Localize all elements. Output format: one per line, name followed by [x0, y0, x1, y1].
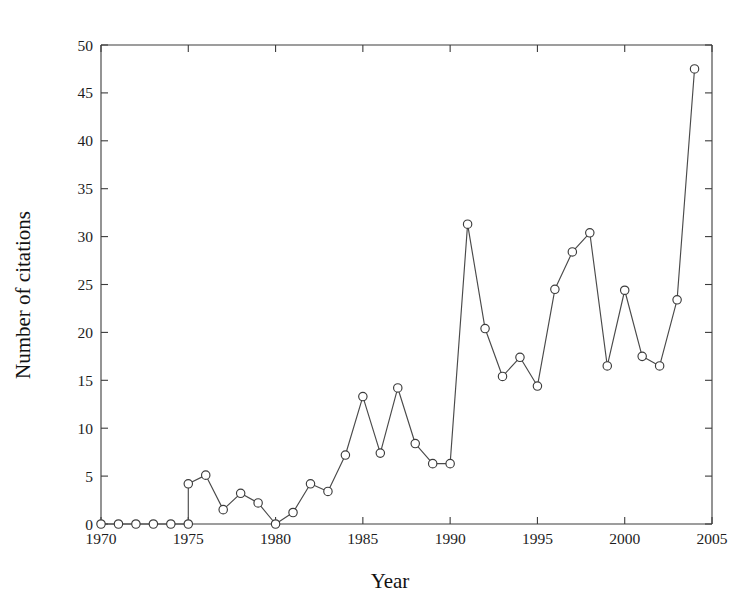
y-tick-label: 15: [78, 372, 94, 389]
data-point-marker: [463, 220, 471, 228]
data-point-marker: [428, 459, 436, 467]
data-point-marker: [621, 286, 629, 294]
y-tick-label: 25: [78, 276, 94, 293]
x-tick-label: 2005: [697, 530, 728, 547]
data-point-marker: [586, 229, 594, 237]
y-tick-label: 50: [78, 37, 94, 54]
data-point-marker: [638, 352, 646, 360]
data-point-marker: [359, 392, 367, 400]
data-point-marker: [97, 520, 105, 528]
data-point-marker: [184, 480, 192, 488]
chart-canvas: 05101520253035404550 1970197519801985199…: [0, 0, 740, 606]
y-tick-label: 30: [78, 228, 94, 245]
y-tick-label: 20: [78, 324, 94, 341]
x-tick-label: 1985: [347, 530, 378, 547]
axes: [101, 45, 712, 524]
y-tick-label: 40: [78, 132, 94, 149]
data-point-marker: [376, 449, 384, 457]
data-point-marker: [114, 520, 122, 528]
x-axis-tick-labels: 19701975198019851990199520002005: [86, 530, 728, 547]
y-tick-label: 45: [78, 84, 94, 101]
data-point-marker: [149, 520, 157, 528]
x-tick-label: 1975: [173, 530, 204, 547]
data-point-marker: [236, 489, 244, 497]
data-point-marker: [673, 296, 681, 304]
data-point-marker: [394, 384, 402, 392]
y-axis-title: Number of citations: [11, 211, 35, 379]
x-axis-title: Year: [371, 569, 410, 593]
data-point-marker: [533, 382, 541, 390]
data-point-marker: [568, 248, 576, 256]
y-tick-label: 35: [78, 180, 94, 197]
data-point-marker: [341, 451, 349, 459]
data-point-marker: [481, 324, 489, 332]
data-point-marker: [516, 353, 524, 361]
x-tick-label: 1970: [86, 530, 117, 547]
x-tick-label: 1990: [435, 530, 466, 547]
data-point-marker: [603, 362, 611, 370]
data-point-marker: [219, 505, 227, 513]
data-point-marker: [324, 487, 332, 495]
y-tick-label: 10: [78, 420, 94, 437]
data-point-marker: [411, 439, 419, 447]
data-point-marker: [167, 520, 175, 528]
data-point-marker: [655, 362, 663, 370]
y-tick-label: 5: [85, 468, 93, 485]
data-point-marker: [306, 480, 314, 488]
data-point-marker: [202, 471, 210, 479]
y-axis-ticks: [101, 45, 712, 524]
data-point-marker: [254, 499, 262, 507]
data-point-marker: [132, 520, 140, 528]
data-point-marker: [446, 459, 454, 467]
citations-polyline: [101, 69, 695, 524]
x-axis-ticks: [101, 45, 712, 524]
data-point-marker: [498, 372, 506, 380]
data-point-marker: [289, 508, 297, 516]
citations-line-chart: 05101520253035404550 1970197519801985199…: [0, 0, 740, 606]
data-point-marker: [271, 520, 279, 528]
data-line: [101, 69, 695, 524]
data-point-marker: [690, 65, 698, 73]
x-tick-label: 1995: [522, 530, 553, 547]
x-tick-label: 1980: [260, 530, 291, 547]
data-point-marker: [184, 520, 192, 528]
data-point-marker: [551, 285, 559, 293]
y-axis-tick-labels: 05101520253035404550: [78, 37, 94, 533]
axis-spines: [101, 45, 712, 524]
x-tick-label: 2000: [609, 530, 640, 547]
data-markers: [97, 65, 699, 528]
